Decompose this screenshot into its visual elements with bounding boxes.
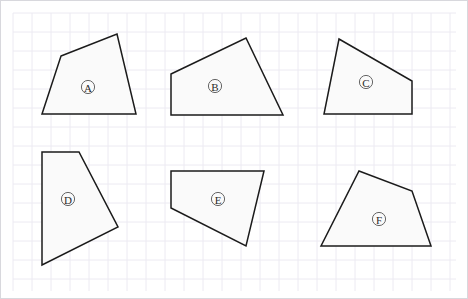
polygon-outline[interactable] — [42, 152, 118, 265]
polygon-outline[interactable] — [171, 171, 264, 246]
polygon-outline[interactable] — [321, 171, 431, 246]
polygon-e[interactable]: E — [171, 171, 264, 246]
polygon-f[interactable]: F — [321, 171, 431, 246]
polygon-c[interactable]: C — [324, 39, 412, 114]
shape-label-b: B — [211, 81, 218, 93]
polygon-a[interactable]: A — [42, 34, 136, 114]
worksheet-canvas: ABCDEF — [0, 0, 468, 299]
polygon-outline[interactable] — [42, 34, 136, 114]
shape-label-f: F — [376, 214, 382, 226]
shape-layer: ABCDEF — [1, 1, 468, 299]
polygon-outline[interactable] — [171, 38, 283, 115]
shape-label-a: A — [84, 82, 92, 94]
shape-label-c: C — [362, 77, 369, 89]
shape-label-d: D — [64, 194, 72, 206]
polygon-b[interactable]: B — [171, 38, 283, 115]
shape-label-e: E — [215, 194, 222, 206]
polygon-d[interactable]: D — [42, 152, 118, 265]
